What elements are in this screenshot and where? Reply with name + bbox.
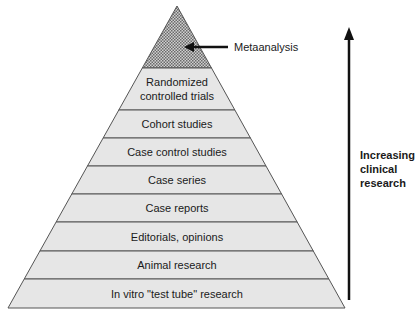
increasing-clinical-research-label: Increasing clinical research: [360, 148, 416, 190]
pyramid-layer-label: Case series: [148, 174, 207, 186]
pyramid-apex-metaanalysis: [142, 6, 211, 68]
side-label-line-2: clinical: [360, 162, 416, 176]
increasing-arrow: [344, 27, 354, 300]
pyramid-layer-label: Cohort studies: [142, 118, 213, 130]
evidence-pyramid-diagram: Randomizedcontrolled trialsCohort studie…: [0, 0, 416, 319]
metaanalysis-label: Metaanalysis: [234, 41, 299, 53]
pyramid-layer-label: In vitro "test tube" research: [111, 288, 243, 300]
side-label-line-3: research: [360, 176, 416, 190]
pyramid-layer-label: Case reports: [146, 202, 209, 214]
pyramid-layer-label: Case control studies: [127, 146, 227, 158]
pyramid-layer-label: Animal research: [137, 259, 216, 271]
pyramid-layer: [119, 68, 235, 110]
pyramid-layer-label: controlled trials: [140, 90, 214, 102]
pyramid-layer-label: Randomized: [146, 76, 208, 88]
side-label-line-1: Increasing: [360, 148, 416, 162]
pyramid-layer-label: Editorials, opinions: [131, 231, 224, 243]
